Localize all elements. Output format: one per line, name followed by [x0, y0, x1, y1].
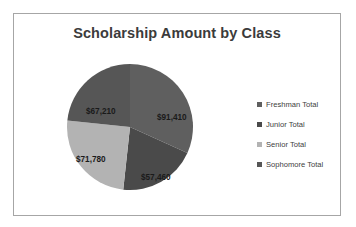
slice-label-sophomore: $67,210	[86, 107, 116, 116]
legend-label: Freshman Total	[266, 100, 318, 109]
chart-legend: Freshman Total Junior Total Senior Total…	[257, 97, 349, 177]
slice-label-freshman: $91,410	[157, 113, 187, 122]
legend-swatch-icon	[257, 102, 262, 107]
legend-item-junior[interactable]: Junior Total	[257, 117, 349, 132]
legend-swatch-icon	[257, 122, 262, 127]
legend-label: Sophomore Total	[266, 160, 323, 169]
legend-swatch-icon	[257, 162, 262, 167]
legend-label: Junior Total	[266, 120, 305, 129]
legend-item-senior[interactable]: Senior Total	[257, 137, 349, 152]
slice-label-senior: $71,780	[76, 155, 106, 164]
legend-item-freshman[interactable]: Freshman Total	[257, 97, 349, 112]
pie-slices	[67, 64, 193, 190]
chart-container: Scholarship Amount by Class $91,410 $57,…	[13, 13, 341, 216]
plot-area: $91,410 $57,460 $71,780 $67,210 Freshman…	[14, 14, 342, 217]
legend-label: Senior Total	[266, 140, 306, 149]
pie-chart	[66, 61, 194, 195]
legend-swatch-icon	[257, 142, 262, 147]
pie-slice[interactable]	[67, 64, 130, 127]
slice-label-junior: $57,460	[141, 173, 171, 182]
legend-item-sophomore[interactable]: Sophomore Total	[257, 157, 349, 172]
